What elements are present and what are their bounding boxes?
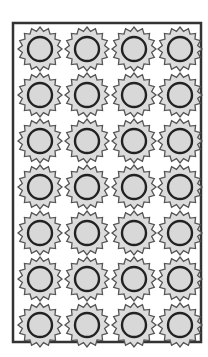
- gear-hub: [28, 313, 52, 337]
- gear-hub: [122, 129, 146, 153]
- gear-icon: [158, 165, 202, 209]
- gear-hub: [75, 175, 99, 199]
- gear-icon: [65, 303, 109, 347]
- gear-hub: [28, 221, 52, 245]
- gear-hub: [28, 129, 52, 153]
- gear-grid-figure: [0, 0, 208, 357]
- gear-hub: [75, 129, 99, 153]
- gear-hub: [28, 267, 52, 291]
- gear-hub: [28, 175, 52, 199]
- gear-icon: [158, 257, 202, 301]
- gear-hub: [122, 267, 146, 291]
- gear-icon: [18, 27, 62, 71]
- gear-hub: [168, 175, 192, 199]
- gear-hub: [168, 37, 192, 61]
- gear-hub: [122, 313, 146, 337]
- gear-icon: [112, 257, 156, 301]
- gear-icon: [158, 27, 202, 71]
- gear-icon: [112, 27, 156, 71]
- gear-hub: [168, 267, 192, 291]
- gear-hub: [75, 37, 99, 61]
- gear-grid: [18, 27, 202, 347]
- gear-icon: [65, 257, 109, 301]
- gear-icon: [158, 303, 202, 347]
- gear-icon: [112, 73, 156, 117]
- gear-icon: [112, 165, 156, 209]
- gear-hub: [122, 175, 146, 199]
- gear-hub: [122, 221, 146, 245]
- gear-hub: [168, 221, 192, 245]
- gear-icon: [65, 119, 109, 163]
- gear-hub: [28, 83, 52, 107]
- gear-icon: [18, 119, 62, 163]
- gear-hub: [28, 37, 52, 61]
- gear-icon: [18, 73, 62, 117]
- gear-hub: [122, 37, 146, 61]
- gear-icon: [112, 119, 156, 163]
- gear-icon: [18, 303, 62, 347]
- gear-icon: [65, 211, 109, 255]
- gear-icon: [18, 165, 62, 209]
- gear-icon: [18, 257, 62, 301]
- gear-hub: [122, 83, 146, 107]
- gear-icon: [112, 303, 156, 347]
- gear-icon: [18, 211, 62, 255]
- gear-icon: [65, 27, 109, 71]
- gear-hub: [75, 313, 99, 337]
- gear-hub: [75, 83, 99, 107]
- gear-icon: [65, 165, 109, 209]
- gear-icon: [158, 119, 202, 163]
- gear-hub: [168, 313, 192, 337]
- gear-hub: [75, 221, 99, 245]
- gear-icon: [112, 211, 156, 255]
- gear-hub: [75, 267, 99, 291]
- gear-hub: [168, 129, 192, 153]
- gear-icon: [65, 73, 109, 117]
- gear-icon: [158, 73, 202, 117]
- gear-hub: [168, 83, 192, 107]
- gear-icon: [158, 211, 202, 255]
